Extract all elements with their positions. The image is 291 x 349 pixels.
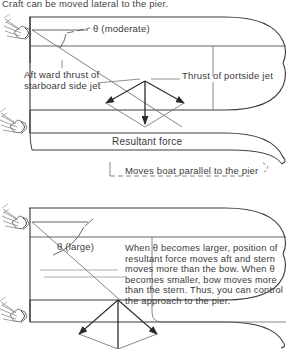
jet-nozzle-starboard-lower xyxy=(0,297,27,322)
force-parallelogram-large xyxy=(79,300,157,349)
vector-starboard-aft-thrust-large xyxy=(79,300,118,334)
top-caption: Craft can be moved lateral to the pier. xyxy=(2,0,168,9)
boat-hull-upper xyxy=(29,17,286,63)
force-parallelogram-moderate xyxy=(106,81,184,127)
resultant-force-label: Resultant force xyxy=(112,136,182,147)
aft-thrust-label: Aft ward thrust ofstarboard side jet xyxy=(24,70,100,91)
theta-large-label: θ (large) xyxy=(57,241,94,252)
moves-parallel-label: Moves boat parallel to the pier xyxy=(125,165,258,176)
vector-portside-thrust xyxy=(145,81,184,103)
aft-thrust-line-1: Aft ward thrust of xyxy=(24,69,99,80)
panel-moderate-angle xyxy=(0,14,286,176)
explanation-paragraph: When θ becomes larger, position of resul… xyxy=(125,243,291,307)
jet-nozzle-port-upper xyxy=(4,14,31,39)
jet-nozzle-starboard-upper xyxy=(0,108,27,133)
portside-thrust-label: Thrust of portside jet xyxy=(182,70,273,81)
diagram-figure: Craft can be moved lateral to the pier. … xyxy=(0,0,291,349)
theta-moderate-label: θ (moderate) xyxy=(93,23,150,34)
jet-nozzle-port-lower xyxy=(2,204,29,229)
theta-large-annotation xyxy=(32,219,120,300)
aft-thrust-line-2: starboard side jet xyxy=(24,80,100,91)
